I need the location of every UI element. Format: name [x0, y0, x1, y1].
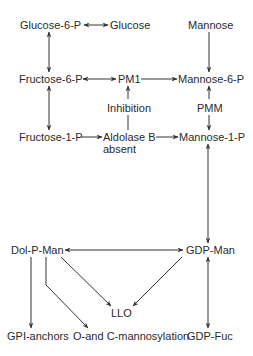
node-gpi-anchors: GPI-anchors	[7, 330, 69, 342]
node-gdp-man: GDP-Man	[186, 244, 235, 256]
edge-gdpman-llo	[133, 257, 182, 306]
node-aldolase-b-absent: absent	[103, 143, 136, 155]
node-fructose-6-p: Fructose-6-P	[19, 73, 83, 85]
node-glucose: Glucose	[110, 19, 150, 31]
node-fructose-1-p: Fructose-1-P	[19, 131, 83, 143]
node-mannose: Mannose	[188, 19, 233, 31]
node-aldolase-b: Aldolase B	[103, 131, 156, 143]
node-o-c-mannosylation: O-and C-mannosylation	[73, 330, 189, 342]
edge-dolpman-mannosylation	[46, 257, 88, 328]
node-dol-p-man: Dol-P-Man	[11, 244, 64, 256]
edge-dolpman-llo	[61, 257, 111, 306]
node-gdp-fuc: GDP-Fuc	[187, 330, 233, 342]
node-pm1: PM1	[118, 73, 141, 85]
node-mannose-1-p: Mannose-1-P	[179, 131, 245, 143]
edges	[31, 25, 209, 328]
node-mannose-6-p: Mannose-6-P	[178, 73, 244, 85]
pathway-diagram: Glucose-6-P Glucose Mannose Fructose-6-P…	[0, 0, 253, 356]
label-pmm: PMM	[197, 102, 223, 114]
label-inhibition: Inhibition	[107, 102, 151, 114]
node-llo: LLO	[111, 307, 132, 319]
node-glucose-6-p: Glucose-6-P	[20, 19, 81, 31]
